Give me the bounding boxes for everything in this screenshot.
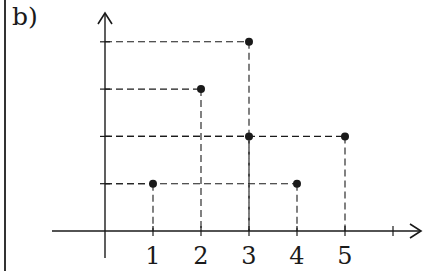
- data-point: [341, 132, 349, 140]
- x-tick-labels: 12345: [145, 242, 352, 270]
- x-tick-label: 5: [337, 242, 352, 270]
- chart-panel: b) 12345: [0, 0, 433, 271]
- data-point: [149, 180, 157, 188]
- data-point: [245, 38, 253, 46]
- projection-lines: [105, 42, 345, 231]
- x-tick-label: 4: [289, 242, 304, 270]
- data-point: [245, 132, 253, 140]
- x-tick-label: 1: [145, 242, 160, 270]
- data-point: [197, 85, 205, 93]
- x-tick-label: 2: [193, 242, 208, 270]
- data-point: [293, 180, 301, 188]
- axes: [52, 13, 421, 258]
- scatter-plot: 12345: [0, 0, 433, 271]
- x-tick-label: 3: [241, 242, 256, 270]
